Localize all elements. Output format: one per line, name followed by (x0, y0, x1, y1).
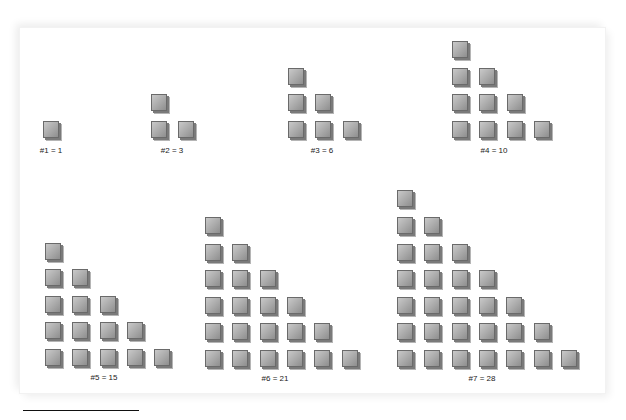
cube-icon (397, 217, 413, 234)
cube-icon (397, 350, 413, 367)
cube-icon (534, 350, 550, 367)
cube-icon (452, 323, 468, 340)
cube-icon (506, 297, 522, 314)
cube-icon (45, 322, 61, 339)
cube-icon (424, 270, 440, 287)
footnote-rule (23, 410, 139, 411)
cube-icon (288, 68, 304, 85)
cube-icon (424, 297, 440, 314)
cube-icon (479, 94, 495, 111)
cube-icon (479, 297, 495, 314)
cube-icon (452, 350, 468, 367)
cube-icon (178, 121, 194, 138)
cube-icon (260, 270, 276, 287)
cube-icon (205, 217, 221, 234)
cube-icon (314, 323, 330, 340)
cube-icon (507, 121, 523, 138)
cube-icon (507, 94, 523, 111)
cube-icon (151, 94, 167, 111)
cube-icon (43, 121, 59, 138)
cube-icon (45, 296, 61, 313)
cube-icon (287, 323, 303, 340)
cube-icon (72, 296, 88, 313)
cube-icon (534, 121, 550, 138)
cube-icon (397, 323, 413, 340)
cube-icon (479, 68, 495, 85)
group-label: #6 = 21 (262, 374, 289, 383)
cube-icon (479, 121, 495, 138)
cube-icon (100, 349, 116, 366)
cube-icon (127, 322, 143, 339)
cube-icon (72, 322, 88, 339)
cube-icon (100, 296, 116, 313)
cube-icon (260, 350, 276, 367)
cube-icon (452, 297, 468, 314)
cube-icon (397, 297, 413, 314)
cube-icon (424, 244, 440, 261)
cube-icon (452, 41, 468, 58)
cube-icon (397, 244, 413, 261)
cube-icon (506, 350, 522, 367)
cube-icon (397, 270, 413, 287)
cube-icon (288, 121, 304, 138)
cube-icon (287, 350, 303, 367)
cube-icon (205, 323, 221, 340)
cube-icon (205, 270, 221, 287)
cube-icon (151, 121, 167, 138)
cube-icon (232, 350, 248, 367)
cube-icon (232, 297, 248, 314)
cube-icon (260, 323, 276, 340)
cube-icon (561, 350, 577, 367)
cube-icon (452, 68, 468, 85)
cube-icon (315, 94, 331, 111)
cube-icon (45, 349, 61, 366)
cube-icon (205, 350, 221, 367)
cube-icon (479, 270, 495, 287)
cube-icon (45, 269, 61, 286)
cube-icon (205, 244, 221, 261)
cube-icon (424, 323, 440, 340)
cube-icon (205, 297, 221, 314)
cube-icon (232, 270, 248, 287)
cube-icon (342, 350, 358, 367)
cube-icon (452, 121, 468, 138)
cube-icon (314, 350, 330, 367)
cube-icon (232, 244, 248, 261)
cube-icon (479, 323, 495, 340)
cube-icon (397, 190, 413, 207)
cube-icon (343, 121, 359, 138)
cube-icon (315, 121, 331, 138)
cube-icon (45, 243, 61, 260)
group-label: #3 = 6 (311, 146, 333, 155)
cube-icon (154, 349, 170, 366)
cube-icon (72, 269, 88, 286)
cube-icon (288, 94, 304, 111)
cube-icon (127, 349, 143, 366)
cube-icon (287, 297, 303, 314)
cube-icon (100, 322, 116, 339)
cube-icon (452, 270, 468, 287)
group-label: #5 = 15 (91, 373, 118, 382)
cube-icon (534, 323, 550, 340)
cube-icon (452, 244, 468, 261)
cube-icon (424, 217, 440, 234)
cube-icon (479, 350, 495, 367)
cube-icon (506, 323, 522, 340)
cube-icon (72, 349, 88, 366)
group-label: #2 = 3 (161, 146, 183, 155)
cube-icon (232, 323, 248, 340)
cube-icon (452, 94, 468, 111)
group-label: #7 = 28 (469, 374, 496, 383)
group-label: #1 = 1 (40, 146, 62, 155)
cube-icon (260, 297, 276, 314)
cube-icon (424, 350, 440, 367)
group-label: #4 = 10 (481, 146, 508, 155)
